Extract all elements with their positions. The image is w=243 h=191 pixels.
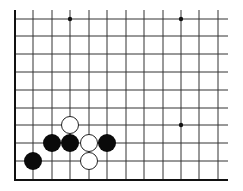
white-stone bbox=[81, 135, 98, 152]
black-stone bbox=[61, 134, 79, 152]
star-point bbox=[68, 17, 72, 21]
star-point bbox=[179, 17, 183, 21]
star-point bbox=[179, 123, 183, 127]
black-stone bbox=[24, 152, 42, 170]
go-board bbox=[0, 0, 243, 191]
black-stone bbox=[43, 134, 61, 152]
white-stone bbox=[62, 117, 79, 134]
black-stone bbox=[98, 134, 116, 152]
white-stone bbox=[81, 153, 98, 170]
grid-lines bbox=[15, 10, 228, 180]
